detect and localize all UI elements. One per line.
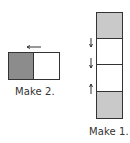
left-figure-label: Make 2. (15, 86, 55, 97)
right-cell-3-empty (97, 65, 123, 92)
right-cell-2-empty (97, 39, 123, 65)
diagram-canvas (0, 0, 130, 143)
arrow-down-icon (90, 58, 93, 68)
right-cell-1-shaded (97, 13, 123, 39)
left-cell-empty (34, 53, 60, 80)
right-figure-label: Make 1. (89, 126, 129, 137)
right-cell-4-shaded (97, 92, 123, 119)
arrow-down-icon (90, 38, 93, 47)
right-figure (90, 13, 123, 119)
arrow-up-icon (90, 84, 93, 94)
left-cell-shaded (9, 53, 34, 80)
left-figure (9, 46, 60, 80)
arrow-left-icon (27, 46, 41, 49)
